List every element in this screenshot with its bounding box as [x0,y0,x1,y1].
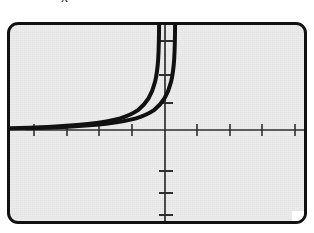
curve-group [10,25,175,128]
axis-label-x: x [54,0,76,5]
curve-left-branch [10,25,159,128]
figure-root: x [0,0,314,233]
curve-right-branch [26,25,175,128]
y-axis-ticks [159,41,173,215]
plot-frame [7,22,307,224]
plot-canvas [10,25,304,221]
